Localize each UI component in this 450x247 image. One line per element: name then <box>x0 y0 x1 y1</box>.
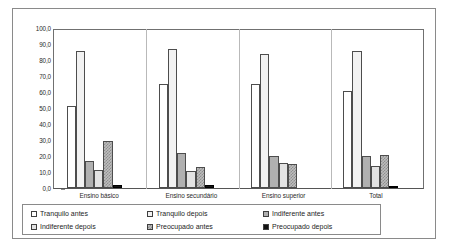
chart-legend: Tranquilo antesTranquilo depoisIndiferen… <box>22 204 381 235</box>
bar <box>186 171 195 188</box>
bar <box>362 156 371 188</box>
bar <box>76 51 85 188</box>
bar <box>371 166 380 188</box>
chart-figure: 0,010,020,030,040,050,060,070,080,090,01… <box>0 0 450 247</box>
bar <box>196 167 205 188</box>
bar <box>177 153 186 188</box>
bar <box>352 51 361 188</box>
legend-label: Preocupado antes <box>156 223 213 231</box>
legend-item[interactable]: Preocupado antes <box>147 223 213 231</box>
bar <box>85 161 94 188</box>
y-axis-tick-label: 60,0 <box>39 89 51 97</box>
legend-swatch-icon <box>31 211 37 217</box>
legend-item[interactable]: Indiferente depois <box>31 223 96 231</box>
legend-swatch-icon <box>263 211 269 217</box>
bar-group <box>331 30 423 188</box>
group-separator <box>331 29 332 189</box>
bar <box>168 49 177 188</box>
bar <box>343 91 352 188</box>
bar-group <box>239 30 331 188</box>
bar <box>113 185 122 188</box>
legend-swatch-icon <box>31 224 37 230</box>
group-separator <box>146 29 147 189</box>
x-axis-category-labels: Ensino básicoEnsino secundárioEnsino sup… <box>53 191 424 203</box>
group-separator <box>239 29 240 189</box>
legend-swatch-icon <box>147 224 153 230</box>
y-axis-tick-label: 30,0 <box>39 137 51 145</box>
y-axis-tick-label: 40,0 <box>39 121 51 129</box>
y-axis-tick-label: 20,0 <box>39 153 51 161</box>
legend-swatch-icon <box>147 211 153 217</box>
bar <box>251 84 260 188</box>
bar <box>103 141 112 188</box>
bar <box>67 106 76 188</box>
bar <box>94 170 103 188</box>
legend-label: Preocupado depois <box>272 223 332 231</box>
x-axis-category-label: Ensino superior <box>238 192 330 199</box>
legend-item[interactable]: Indiferente antes <box>263 210 324 218</box>
bar-group <box>146 30 238 188</box>
legend-label: Tranquilo depois <box>156 210 208 218</box>
y-axis-tick-label: 50,0 <box>39 105 51 113</box>
legend-item[interactable]: Tranquilo depois <box>147 210 208 218</box>
bar <box>288 164 297 188</box>
y-axis-tick-label: 70,0 <box>39 73 51 81</box>
y-axis-tick-labels: 0,010,020,030,040,050,060,070,080,090,01… <box>12 24 51 196</box>
bar <box>205 185 214 188</box>
y-axis-tick-mark <box>61 189 65 190</box>
bar <box>269 156 278 188</box>
bar <box>260 54 269 188</box>
bar <box>389 186 398 188</box>
x-axis-category-label: Total <box>330 192 422 199</box>
bar <box>380 155 389 188</box>
legend-swatch-icon <box>263 224 269 230</box>
y-axis-tick-label: 80,0 <box>39 57 51 65</box>
y-axis-tick-label: 0,0 <box>43 185 51 193</box>
y-axis-tick-label: 100,0 <box>36 25 51 33</box>
x-axis-category-label: Ensino secundário <box>145 192 237 199</box>
bar <box>279 163 288 188</box>
bar-group <box>54 30 146 188</box>
legend-item[interactable]: Tranquilo antes <box>31 210 88 218</box>
x-axis-category-label: Ensino básico <box>53 192 145 199</box>
legend-label: Indiferente depois <box>40 223 96 231</box>
y-axis-tick-label: 90,0 <box>39 41 51 49</box>
bar <box>159 84 168 188</box>
legend-label: Tranquilo antes <box>40 210 88 218</box>
y-axis-tick-label: 10,0 <box>39 169 51 177</box>
legend-label: Indiferente antes <box>272 210 324 218</box>
legend-item[interactable]: Preocupado depois <box>263 223 332 231</box>
